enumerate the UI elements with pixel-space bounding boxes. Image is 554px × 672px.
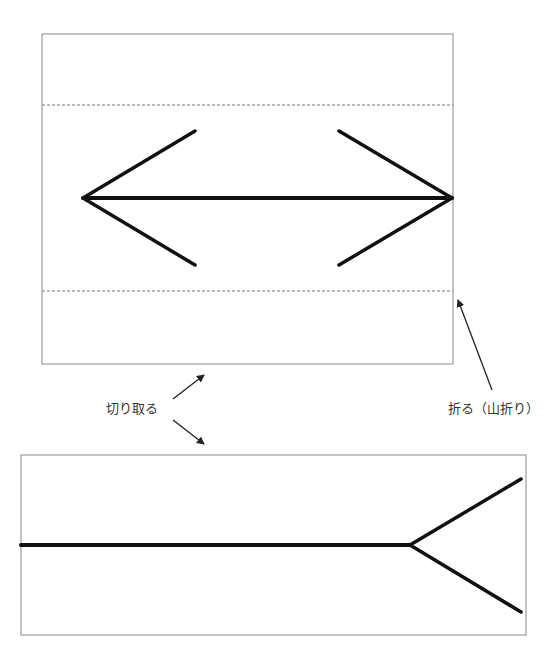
cut-arrow-down-icon	[173, 420, 204, 444]
top-panel	[42, 34, 453, 364]
bottom-panel	[21, 455, 526, 635]
annotations	[173, 300, 492, 444]
double-arrow-figure	[83, 131, 452, 265]
fork-tail	[410, 479, 521, 612]
fold-label: 折る（山折り）	[448, 401, 539, 417]
fold-arrow-icon	[458, 300, 492, 390]
cut-arrow-up-icon	[173, 375, 204, 399]
cut-label: 切り取る	[106, 401, 158, 417]
diagram-canvas	[0, 0, 554, 672]
fork-line-figure	[21, 479, 521, 612]
